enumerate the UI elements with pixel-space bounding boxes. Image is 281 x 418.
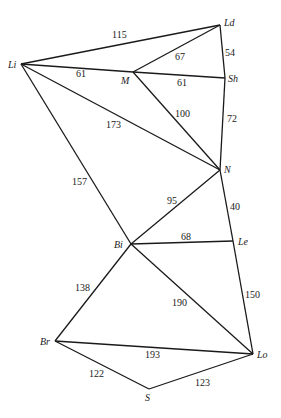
edge-n-bi [131,170,220,244]
edge-br-s [55,341,149,389]
edge-bi-br [55,244,131,341]
edge-weight-label: 72 [227,113,237,124]
graph-svg: 1156117315767611005472954068138190150193… [0,0,281,418]
edge-weight-label: 61 [76,68,86,79]
node-label-n: N [223,164,232,175]
edge-weight-label: 54 [225,47,235,58]
node-label-s: S [145,392,150,403]
edge-weight-label: 40 [230,201,240,212]
edge-m-ld [133,25,220,72]
edge-weight-label: 61 [177,77,187,88]
edge-weight-label: 115 [112,29,127,40]
edges-group [21,25,253,389]
node-label-ld: Ld [223,17,236,28]
edge-weight-label: 123 [195,377,210,388]
edge-weight-label: 150 [245,289,260,300]
edge-weight-label: 100 [175,108,190,119]
edge-weight-label: 173 [106,119,121,130]
edge-bi-lo [131,244,253,354]
node-label-br: Br [40,336,50,347]
node-label-bi: Bi [114,239,123,250]
edge-sh-n [220,78,225,170]
edge-weight-label: 138 [75,282,90,293]
edge-weight-label: 68 [181,231,191,242]
node-label-li: Li [7,59,17,70]
node-label-sh: Sh [228,73,238,84]
edge-weight-label: 157 [72,176,87,187]
node-label-lo: Lo [256,349,268,360]
node-label-m: M [120,75,130,86]
graph-diagram: 1156117315767611005472954068138190150193… [0,0,281,418]
node-labels-group: LiLdMShNBiLeBrLoS [7,17,268,403]
node-label-le: Le [237,236,249,247]
edge-weight-label: 67 [175,51,185,62]
edge-weight-label: 190 [172,297,187,308]
edge-weight-label: 193 [145,349,160,360]
edge-weight-label: 95 [167,195,177,206]
edge-weight-label: 122 [89,368,104,379]
edge-li-bi [21,64,131,244]
